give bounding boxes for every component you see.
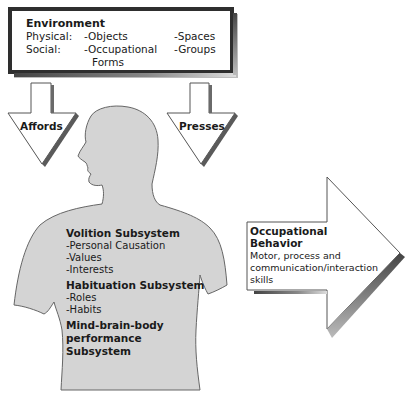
habituation-item: -Habits bbox=[66, 305, 102, 315]
env-social-groups: -Groups bbox=[174, 44, 216, 55]
performance-title-line: performance bbox=[66, 333, 142, 344]
performance-title-line: Subsystem bbox=[66, 346, 131, 357]
volition-item: -Interests bbox=[66, 265, 113, 275]
diagram-canvas bbox=[0, 0, 413, 396]
performance-title-line: Mind-brain-body bbox=[66, 320, 164, 331]
volition-item: -Values bbox=[66, 253, 102, 263]
env-physical-label: Physical: bbox=[26, 31, 72, 42]
occupational-behavior-description: Motor, process and communication/interac… bbox=[250, 250, 400, 286]
volition-item: -Personal Causation bbox=[66, 241, 165, 251]
env-physical-objects: -Objects bbox=[84, 31, 128, 42]
environment-title: Environment bbox=[26, 18, 105, 29]
env-social-label: Social: bbox=[26, 44, 61, 55]
affords-label: Affords bbox=[20, 121, 63, 132]
habituation-item: -Roles bbox=[66, 293, 96, 303]
volition-title: Volition Subsystem bbox=[66, 228, 180, 239]
presses-label: Presses bbox=[179, 121, 225, 132]
occupational-behavior-title-line: Occupational bbox=[250, 225, 327, 237]
env-physical-spaces: -Spaces bbox=[174, 31, 215, 42]
env-social-occupational: -Occupational bbox=[84, 44, 157, 55]
habituation-title: Habituation Subsystem bbox=[66, 280, 205, 291]
occupational-behavior-title-line: Behavior bbox=[250, 237, 303, 249]
env-social-forms: Forms bbox=[92, 57, 124, 68]
